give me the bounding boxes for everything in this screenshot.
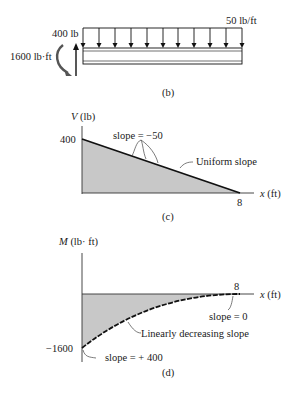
moment-arrowhead [64, 69, 72, 76]
moment-diagram: M (lb· ft) 8 x (ft) slope = 0 Linearly d… [46, 236, 281, 379]
slope-start-annotation: slope = + 400 [105, 352, 163, 363]
caption-d: (d) [162, 367, 175, 379]
moment-arc-icon [57, 45, 68, 73]
m-axis-label: M (lb· ft) [58, 236, 99, 248]
v-tick-400: 400 [60, 134, 76, 145]
caption-b: (b) [162, 87, 175, 99]
x-axis-label: x (ft) [259, 188, 281, 200]
moment-label: 1600 lb·ft [10, 51, 52, 62]
shear-diagram: V (lb) 400 slope = −50 Uniform slope 8 x… [60, 111, 281, 223]
linear-slope-annotation: Linearly decreasing slope [141, 328, 249, 339]
arrow-heads [81, 43, 245, 48]
v-axis-label: V (lb) [71, 111, 96, 123]
m-tick-neg1600: −1600 [46, 343, 73, 354]
distributed-load-label: 50 lb/ft [226, 15, 257, 26]
slope-zero-annotation: slope = 0 [209, 311, 248, 322]
beam-loading-figure: 50 lb/ft 400 lb 1600 lb·ft (b) [10, 15, 257, 99]
slope-annotation: slope = −50 [113, 130, 163, 141]
beam [83, 48, 242, 64]
shear-moment-diagram: 50 lb/ft 400 lb 1600 lb·ft (b) V (lb) 40… [0, 0, 294, 393]
x-tick-8: 8 [237, 197, 242, 208]
point-force-label: 400 lb [52, 28, 79, 39]
x-axis-label: x (ft) [259, 289, 281, 301]
uniform-slope-annotation: Uniform slope [196, 156, 257, 167]
x-tick-8: 8 [234, 281, 239, 292]
caption-c: (c) [162, 211, 174, 223]
reaction-force-arrowhead [73, 43, 79, 50]
